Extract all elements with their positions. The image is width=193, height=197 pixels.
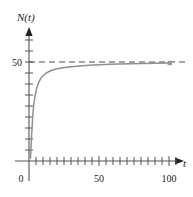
x-tick-label-0: 0: [19, 173, 24, 184]
x-tick-label-100: 100: [162, 173, 177, 184]
chart-figure: N(t) t 50 0 50 100: [0, 0, 193, 197]
y-axis-label: N(t): [16, 11, 35, 24]
curve-endpoint-marker: [168, 61, 172, 65]
y-tick-label-50: 50: [12, 57, 22, 68]
x-axis-ticks: [36, 156, 176, 166]
x-tick-label-50: 50: [94, 173, 104, 184]
growth-curve-chart: N(t) t 50 0 50 100: [0, 0, 193, 197]
